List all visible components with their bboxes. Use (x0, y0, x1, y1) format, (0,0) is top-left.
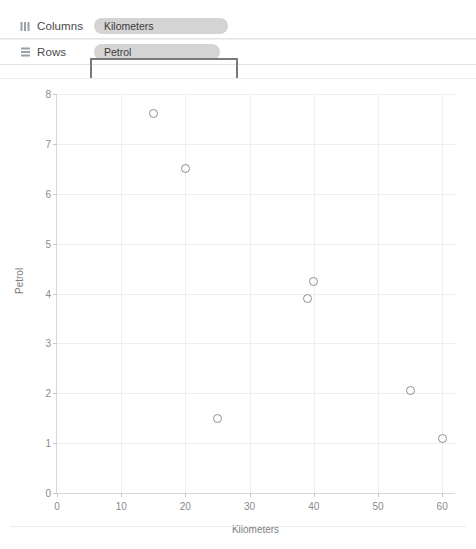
shelf-label-rows: Rows (0, 46, 94, 58)
x-tick-mark (378, 493, 379, 497)
y-tick-mark (53, 194, 57, 195)
y-tick-label: 8 (45, 89, 51, 100)
y-tick-mark (53, 294, 57, 295)
y-tick-label: 2 (45, 388, 51, 399)
y-axis-title: Petrol (14, 268, 25, 294)
shelf-row-rows[interactable]: Rows Petrol (0, 39, 476, 65)
gridline-horizontal (57, 244, 455, 245)
pill-kilometers[interactable]: Kilometers (94, 18, 228, 34)
scatter-point[interactable] (438, 434, 447, 443)
x-tick-label: 20 (180, 501, 191, 512)
x-tick-mark (185, 493, 186, 497)
shelf-dropzone-columns[interactable]: Kilometers (94, 14, 476, 38)
x-tick-mark (57, 493, 58, 497)
bottom-divider (10, 526, 466, 527)
y-tick-label: 3 (45, 338, 51, 349)
y-tick-label: 6 (45, 188, 51, 199)
gridline-vertical (378, 94, 379, 493)
gridline-vertical (314, 94, 315, 493)
y-tick-label: 4 (45, 288, 51, 299)
gridline-vertical (250, 94, 251, 493)
y-tick-label: 5 (45, 238, 51, 249)
shelf-area: Columns Kilometers Rows Petrol (0, 14, 476, 65)
x-tick-label: 0 (54, 501, 60, 512)
x-tick-label: 30 (244, 501, 255, 512)
rows-icon (20, 47, 31, 58)
gridline-horizontal (57, 343, 455, 344)
x-tick-mark (250, 493, 251, 497)
scatter-point[interactable] (149, 109, 158, 118)
gridline-horizontal (57, 194, 455, 195)
x-tick-label: 50 (372, 501, 383, 512)
pill-petrol[interactable]: Petrol (94, 44, 220, 60)
shelf-label-columns: Columns (0, 20, 94, 32)
x-tick-mark (442, 493, 443, 497)
gridline-horizontal (57, 294, 455, 295)
x-tick-label: 60 (437, 501, 448, 512)
y-tick-label: 1 (45, 438, 51, 449)
y-tick-mark (53, 343, 57, 344)
x-tick-mark (314, 493, 315, 497)
y-tick-mark (53, 244, 57, 245)
scatter-point[interactable] (309, 277, 318, 286)
shelf-row-columns[interactable]: Columns Kilometers (0, 14, 476, 39)
gridline-horizontal (57, 144, 455, 145)
scatter-point[interactable] (213, 414, 222, 423)
x-tick-label: 10 (116, 501, 127, 512)
scatter-point[interactable] (406, 386, 415, 395)
gridline-vertical (121, 94, 122, 493)
y-tick-mark (53, 144, 57, 145)
x-tick-label: 40 (308, 501, 319, 512)
y-tick-mark (53, 94, 57, 95)
chart-canvas: 0123456780102030405060 Kilometers Petrol (0, 78, 476, 527)
scatter-point[interactable] (181, 164, 190, 173)
shelf-label-columns-text: Columns (37, 20, 83, 32)
y-tick-mark (53, 393, 57, 394)
gridline-vertical (185, 94, 186, 493)
scatter-plot-area[interactable]: 0123456780102030405060 (56, 94, 455, 494)
x-tick-mark (121, 493, 122, 497)
gridline-horizontal (57, 393, 455, 394)
y-tick-label: 7 (45, 138, 51, 149)
y-tick-label: 0 (45, 488, 51, 499)
y-tick-mark (53, 443, 57, 444)
shelf-label-rows-text: Rows (37, 46, 66, 58)
gridline-horizontal (57, 94, 455, 95)
shelf-dropzone-rows[interactable]: Petrol (94, 40, 476, 64)
gridline-horizontal (57, 443, 455, 444)
columns-icon (20, 21, 31, 32)
scatter-point[interactable] (303, 294, 312, 303)
